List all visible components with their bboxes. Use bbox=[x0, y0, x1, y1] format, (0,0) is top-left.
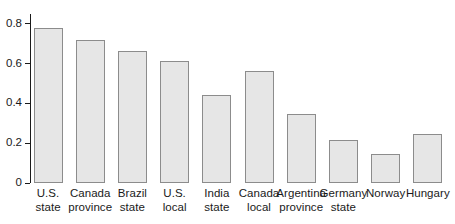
x-axis-label-line2: state bbox=[314, 200, 372, 214]
x-axis-label-line1: India bbox=[204, 187, 229, 199]
y-axis-tick bbox=[25, 183, 30, 184]
y-axis-tick-label: 0.6 bbox=[0, 58, 22, 70]
y-axis-tick bbox=[25, 63, 30, 64]
bar bbox=[329, 140, 358, 183]
bar bbox=[118, 51, 147, 183]
bar bbox=[76, 40, 105, 183]
bar bbox=[160, 61, 189, 183]
bar bbox=[34, 28, 63, 183]
x-axis-label-line1: Hungary bbox=[406, 187, 450, 199]
y-axis-tick-label: 0.8 bbox=[0, 18, 22, 30]
bar bbox=[413, 134, 442, 183]
bar bbox=[245, 71, 274, 183]
x-axis-label-line1: U.S. bbox=[163, 187, 186, 199]
y-axis-tick bbox=[25, 143, 30, 144]
x-axis-label-line1: Brazil bbox=[118, 187, 147, 199]
bar bbox=[202, 95, 231, 183]
bar bbox=[371, 154, 400, 183]
y-axis-tick bbox=[25, 23, 30, 24]
y-axis-tick-label: 0.4 bbox=[0, 97, 22, 109]
x-axis-label: Hungary bbox=[399, 186, 455, 200]
plot-area bbox=[31, 14, 455, 183]
bar-chart: 00.20.40.60.8 U.S.stateCanadaprovinceBra… bbox=[0, 0, 455, 224]
bar bbox=[287, 114, 316, 183]
x-axis-label-line1: U.S. bbox=[37, 187, 60, 199]
y-axis-tick-label: 0.2 bbox=[0, 137, 22, 149]
x-axis-labels: U.S.stateCanadaprovinceBrazilstateU.S.lo… bbox=[31, 186, 455, 224]
y-axis-tick bbox=[25, 103, 30, 104]
